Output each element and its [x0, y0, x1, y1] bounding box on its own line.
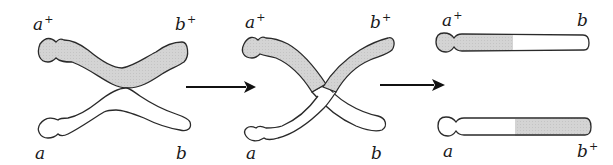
- crossover-diagram: a+ b+ a b a+ b+ a b a+ b a b+: [0, 0, 613, 165]
- label-p2-top-left: a+: [245, 12, 265, 31]
- chromosome-recombinant-a-b-plus-shade: [515, 118, 591, 136]
- allele-superscript: +: [256, 11, 265, 24]
- label-p1-bottom-left: a: [35, 143, 46, 162]
- arrow-1: [186, 81, 256, 93]
- allele-superscript: +: [382, 11, 391, 24]
- label-p3-top-right: b: [577, 10, 589, 29]
- chromosome-a-lower-outline: [245, 92, 336, 141]
- gene-symbol: b: [577, 10, 588, 30]
- gene-symbol: a: [442, 10, 452, 30]
- label-p3-bottom-right: b+: [577, 141, 598, 160]
- label-p2-bottom-left: a: [246, 143, 257, 162]
- label-p3-bottom-left: a: [443, 141, 454, 160]
- chromosome-a-plus-upper: [242, 37, 326, 92]
- chromosome-shaded-a-plus-b-plus: [38, 39, 187, 89]
- label-p1-top-left: a+: [33, 14, 53, 33]
- panel-2-crossing-over: [242, 37, 394, 141]
- chromosome-unshaded-a-b: [38, 88, 190, 138]
- gene-symbol: b: [370, 12, 381, 32]
- chromosome-b-plus-upper: [323, 38, 394, 92]
- label-p3-top-left: a+: [442, 10, 462, 29]
- gene-symbol: b: [577, 141, 588, 161]
- panel-3-recombinants: [436, 33, 591, 136]
- label-p2-bottom-right: b: [371, 143, 383, 162]
- label-p2-top-right: b+: [370, 12, 391, 31]
- gene-symbol: b: [176, 143, 187, 163]
- gene-symbol: a: [35, 143, 45, 163]
- panel-1-paired-homologs: [38, 39, 190, 139]
- diagram-canvas: [0, 0, 613, 165]
- allele-superscript: +: [187, 13, 196, 26]
- gene-symbol: a: [443, 141, 453, 161]
- gene-symbol: a: [33, 14, 43, 34]
- chromosome-recombinant-a-plus-b: [436, 33, 513, 52]
- gene-symbol: b: [175, 14, 186, 34]
- allele-superscript: +: [44, 13, 53, 26]
- allele-superscript: +: [589, 140, 598, 153]
- label-p1-top-right: b+: [175, 14, 196, 33]
- gene-symbol: b: [371, 143, 382, 163]
- allele-superscript: +: [453, 9, 462, 22]
- label-p1-bottom-right: b: [176, 143, 188, 162]
- gene-symbol: a: [246, 143, 256, 163]
- arrow-2: [380, 79, 445, 91]
- gene-symbol: a: [245, 12, 255, 32]
